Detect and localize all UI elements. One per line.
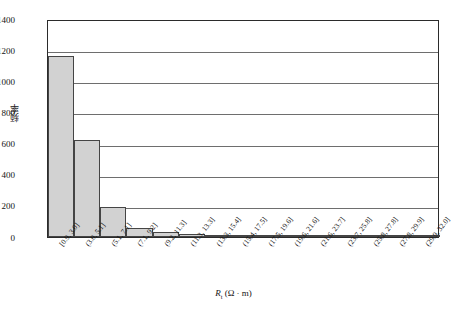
- y-tick-label: 0: [0, 234, 15, 243]
- x-axis-title: Rt (Ω · m): [0, 288, 467, 300]
- y-tick-label: 1000: [0, 78, 15, 87]
- y-tick-label: 200: [0, 202, 15, 211]
- y-tick-label: 400: [0, 171, 15, 180]
- bars-layer: [48, 21, 438, 237]
- y-tick-label: 1400: [0, 16, 15, 25]
- x-axis-units: (Ω · m): [222, 288, 251, 298]
- bar: [48, 56, 74, 237]
- y-tick-label: 600: [0, 140, 15, 149]
- y-tick-label: 1200: [0, 47, 15, 56]
- y-tick-label: 800: [0, 109, 15, 118]
- bar: [74, 140, 100, 237]
- plot-area: [47, 20, 439, 238]
- histogram-chart: 频率 0200400600800100012001400 [0.9, 3.0](…: [0, 0, 467, 321]
